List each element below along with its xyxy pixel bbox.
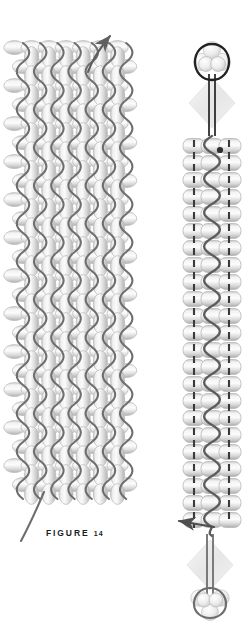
strap-bead-rows bbox=[183, 139, 241, 528]
thread-entry-knot bbox=[217, 147, 223, 153]
figure-caption: FIGURE 14 bbox=[46, 528, 104, 538]
figure-caption-number: 14 bbox=[94, 530, 104, 537]
figure-caption-label: FIGURE bbox=[46, 528, 90, 538]
beadwork-illustration bbox=[0, 0, 250, 634]
figure-root: FIGURE 14 bbox=[0, 0, 250, 634]
woven-beaded-band bbox=[4, 36, 137, 541]
